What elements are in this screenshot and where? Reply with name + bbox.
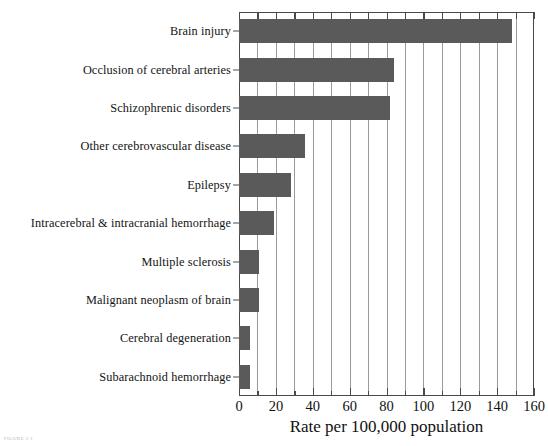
category-axis-labels: Brain injuryOcclusion of cerebral arteri… bbox=[0, 12, 231, 396]
bar bbox=[239, 19, 512, 43]
x-axis-tick bbox=[313, 388, 314, 396]
category-label: Multiple sclerosis bbox=[0, 255, 231, 268]
category-label: Other cerebrovascular disease bbox=[0, 140, 231, 153]
x-axis-tick bbox=[497, 388, 498, 396]
x-axis-title: Rate per 100,000 population bbox=[239, 416, 534, 437]
x-tick-label: 140 bbox=[486, 398, 508, 415]
top-axis-tick bbox=[294, 12, 295, 19]
category-label: Epilepsy bbox=[0, 178, 231, 191]
top-axis-tick bbox=[368, 12, 369, 19]
category-label: Schizophrenic disorders bbox=[0, 102, 231, 115]
category-label: Occlusion of cerebral arteries bbox=[0, 63, 231, 76]
category-tick bbox=[233, 376, 239, 377]
x-axis-tick-labels: 020406080100120140160 bbox=[0, 398, 548, 418]
category-tick bbox=[233, 261, 239, 262]
x-axis-tick bbox=[368, 391, 369, 396]
bar bbox=[239, 173, 291, 197]
category-tick bbox=[233, 223, 239, 224]
x-axis-tick bbox=[423, 388, 424, 396]
bar bbox=[239, 250, 259, 274]
x-tick-label: 160 bbox=[523, 398, 545, 415]
category-tick bbox=[233, 146, 239, 147]
top-axis-tick bbox=[331, 12, 332, 19]
x-axis-tick bbox=[405, 391, 406, 396]
x-tick-label: 40 bbox=[306, 398, 321, 415]
top-axis-tick bbox=[239, 12, 240, 19]
x-axis-tick bbox=[516, 391, 517, 396]
top-axis-tick bbox=[276, 12, 277, 19]
top-axis-tick bbox=[497, 12, 498, 19]
x-axis-tick bbox=[350, 388, 351, 396]
bar-chart: Brain injuryOcclusion of cerebral arteri… bbox=[0, 0, 548, 446]
bar bbox=[239, 326, 250, 350]
x-axis-tick bbox=[294, 391, 295, 396]
top-axis-tick bbox=[460, 12, 461, 19]
category-tick bbox=[233, 300, 239, 301]
x-axis-tick bbox=[331, 391, 332, 396]
bar bbox=[239, 58, 394, 82]
gridline bbox=[516, 12, 517, 396]
category-label: Subarachnoid hemorrhage bbox=[0, 370, 231, 383]
x-tick-label: 100 bbox=[413, 398, 435, 415]
x-tick-label: 80 bbox=[379, 398, 394, 415]
top-axis-tick bbox=[479, 12, 480, 19]
top-axis-tick bbox=[350, 12, 351, 19]
category-label: Malignant neoplasm of brain bbox=[0, 294, 231, 307]
category-tick bbox=[233, 31, 239, 32]
bar bbox=[239, 96, 390, 120]
plot-area bbox=[239, 12, 534, 396]
top-axis-tick bbox=[442, 12, 443, 19]
category-label: Intracerebral & intracranial hemorrhage bbox=[0, 217, 231, 230]
x-tick-label: 20 bbox=[269, 398, 284, 415]
top-axis-tick bbox=[257, 12, 258, 19]
bar bbox=[239, 365, 250, 389]
x-axis-tick bbox=[534, 388, 535, 396]
x-tick-label: 60 bbox=[342, 398, 357, 415]
x-axis-tick bbox=[442, 391, 443, 396]
x-axis-tick bbox=[479, 391, 480, 396]
x-axis-tick bbox=[460, 388, 461, 396]
top-axis-tick bbox=[423, 12, 424, 19]
bar bbox=[239, 134, 305, 158]
gridline bbox=[405, 12, 406, 396]
top-axis-tick bbox=[516, 12, 517, 19]
x-axis-tick bbox=[276, 388, 277, 396]
category-tick bbox=[233, 69, 239, 70]
x-tick-label: 120 bbox=[449, 398, 471, 415]
gridline bbox=[423, 12, 424, 396]
gridline bbox=[442, 12, 443, 396]
category-tick bbox=[233, 108, 239, 109]
category-label: Brain injury bbox=[0, 25, 231, 38]
top-axis-tick bbox=[534, 12, 535, 19]
category-label: Cerebral degeneration bbox=[0, 332, 231, 345]
x-axis-tick bbox=[387, 388, 388, 396]
top-axis-tick bbox=[405, 12, 406, 19]
top-axis-tick bbox=[313, 12, 314, 19]
x-axis-tick bbox=[239, 388, 240, 396]
x-tick-label: 0 bbox=[235, 398, 242, 415]
figure-caption: FIGURE 2-1 bbox=[4, 435, 33, 442]
gridline bbox=[479, 12, 480, 396]
bar bbox=[239, 288, 259, 312]
gridline bbox=[460, 12, 461, 396]
top-axis-tick bbox=[387, 12, 388, 19]
category-tick bbox=[233, 184, 239, 185]
x-axis-tick bbox=[257, 391, 258, 396]
gridline bbox=[497, 12, 498, 396]
bar bbox=[239, 211, 274, 235]
category-tick bbox=[233, 338, 239, 339]
